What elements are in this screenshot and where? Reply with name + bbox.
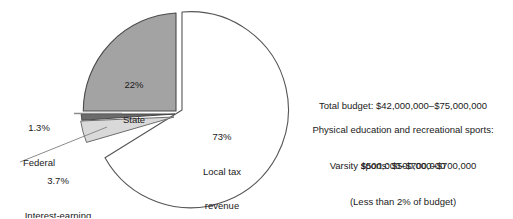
pie-label-interest-earning-percent: 3.7% [0, 175, 116, 187]
info-varsity-sports-line-2: (Less than 2% of budget) [296, 196, 510, 208]
pie-label-interest-earning-name-line-1: Interest-earning [0, 210, 116, 219]
pie-chart-area: 22% State 73% Local tax revenue 1.3% Fed… [0, 0, 290, 218]
pie-label-local-tax-revenue-name-line-2: revenue [185, 200, 259, 212]
pie-label-state-name: State [104, 114, 164, 126]
info-varsity-sports-line-1: Varsity sports: $500,000–$700,000 [296, 160, 510, 172]
pie-label-state: 22% State [104, 56, 164, 148]
pie-label-local-tax-revenue: 73% Local tax revenue [185, 108, 259, 218]
pie-label-interest-earning: 3.7% Interest-earning endowments and use… [0, 152, 116, 218]
budget-info-panel: Total budget: $42,000,000–$75,000,000 Ph… [296, 62, 510, 172]
info-block-varsity-sports: Varsity sports: $500,000–$700,000 (Less … [296, 136, 510, 218]
pie-chart-figure: 22% State 73% Local tax revenue 1.3% Fed… [0, 0, 513, 218]
info-physical-education-line-1: Physical education and recreational spor… [296, 124, 510, 136]
pie-label-state-percent: 22% [104, 79, 164, 91]
pie-label-local-tax-revenue-percent: 73% [185, 131, 259, 143]
pie-label-federal-percent: 1.3% [5, 122, 73, 134]
pie-label-local-tax-revenue-name-line-1: Local tax [185, 166, 259, 178]
